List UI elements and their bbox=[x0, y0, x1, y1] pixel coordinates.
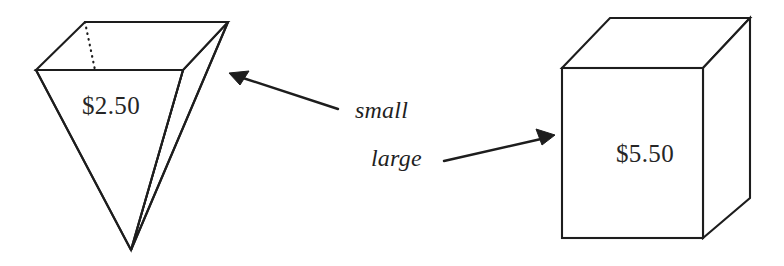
small-container-shape: $2.50 bbox=[36, 22, 228, 250]
small-price-label: $2.50 bbox=[82, 92, 140, 119]
figure-container: $2.50 $5.50 small large bbox=[0, 0, 784, 266]
large-price-label: $5.50 bbox=[616, 140, 674, 167]
small-annotation-arrow bbox=[229, 71, 338, 109]
diagram-canvas: $2.50 $5.50 small large bbox=[0, 0, 784, 266]
large-annotation-arrow bbox=[444, 129, 555, 161]
large-container-shape: $5.50 bbox=[562, 18, 750, 238]
large-arrow-head bbox=[536, 129, 555, 145]
small-annotation-label: small bbox=[355, 97, 408, 123]
small-arrow-shaft bbox=[243, 78, 338, 109]
large-annotation-label: large bbox=[371, 145, 422, 171]
large-arrow-shaft bbox=[444, 139, 541, 161]
